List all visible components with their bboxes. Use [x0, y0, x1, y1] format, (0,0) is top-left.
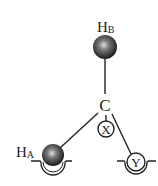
y-label: Y [131, 155, 141, 170]
x-label: X [101, 122, 111, 137]
hb-sphere [93, 35, 117, 59]
hb-label: HB [97, 19, 115, 35]
atom-ha: HA [16, 144, 72, 175]
center-atom-label: C [99, 96, 110, 115]
bond-c-y [112, 114, 131, 154]
bond-c-ha [60, 113, 98, 148]
ha-label: HA [16, 144, 35, 160]
atom-y: Y [117, 153, 156, 174]
atom-hb: HB [93, 19, 117, 59]
atom-x: X [98, 121, 114, 137]
ha-sphere [42, 144, 64, 166]
molecule-diagram: HB C X HA Y [0, 0, 158, 186]
